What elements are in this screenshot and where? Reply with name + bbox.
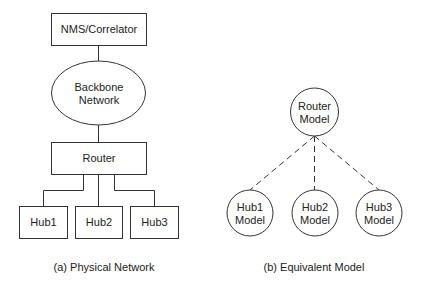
hub2-model-label-1: Hub2	[302, 201, 328, 213]
hub3-model-label-1: Hub3	[366, 201, 392, 213]
hub1-label: Hub1	[30, 216, 56, 228]
router-model-label-2: Model	[300, 113, 330, 125]
diagram-canvas: NMS/Correlator Backbone Network Router H…	[0, 0, 421, 295]
backbone-label-2: Network	[79, 94, 120, 106]
hub1-model-label-2: Model	[235, 214, 265, 226]
hub1-model-label-1: Hub1	[237, 201, 263, 213]
hub3-label: Hub3	[141, 216, 167, 228]
hub2-model-label-2: Model	[300, 214, 330, 226]
nms-label: NMS/Correlator	[61, 23, 138, 35]
router-model-circle	[291, 88, 339, 136]
router-model-label-1: Router	[298, 100, 331, 112]
hub2-label: Hub2	[86, 216, 112, 228]
physical-caption: (a) Physical Network	[54, 261, 155, 273]
hub3-model-circle	[356, 190, 402, 236]
hub2-model-circle	[292, 190, 338, 236]
hub1-model-circle	[227, 190, 273, 236]
backbone-ellipse	[52, 61, 146, 125]
backbone-label-1: Backbone	[75, 81, 124, 93]
model-caption: (b) Equivalent Model	[264, 261, 365, 273]
router-label: Router	[82, 152, 115, 164]
hub3-model-label-2: Model	[364, 214, 394, 226]
